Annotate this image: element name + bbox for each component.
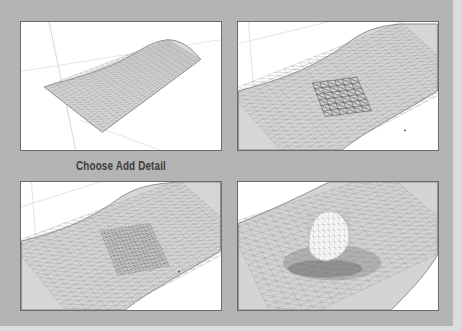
mesh-add-detail-illustration bbox=[21, 182, 221, 310]
mesh-edge bbox=[50, 229, 61, 230]
mesh-edge bbox=[238, 88, 248, 89]
mesh-surface-illustration bbox=[21, 22, 221, 150]
mesh-edge bbox=[252, 82, 263, 83]
mesh-edge bbox=[244, 85, 255, 86]
step-caption: Choose Add Detail bbox=[38, 159, 204, 173]
cursor-dot bbox=[404, 129, 406, 131]
mesh-smoove-illustration bbox=[238, 182, 438, 310]
panel-step-1-surface bbox=[20, 21, 222, 151]
panel-step-4-smoove-bump bbox=[237, 181, 439, 311]
mesh-edge bbox=[57, 226, 68, 227]
panel-step-3-add-detail bbox=[20, 181, 222, 311]
mesh-edge bbox=[260, 78, 271, 79]
panel-step-2-selection bbox=[237, 21, 439, 151]
mesh-edge bbox=[268, 75, 279, 76]
mesh-selection-illustration bbox=[238, 22, 438, 150]
cursor-dot bbox=[178, 271, 180, 273]
